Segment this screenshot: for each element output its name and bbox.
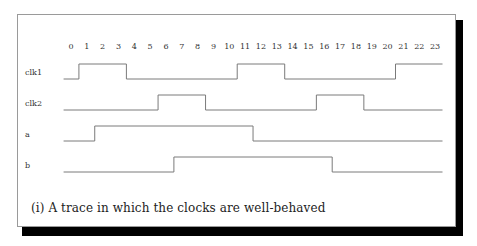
- signal-label-b: b: [25, 161, 30, 170]
- tick-label: 1: [84, 42, 89, 51]
- signal-trace-clk1: [64, 64, 443, 79]
- signal-traces: clk1clk2ab: [25, 64, 443, 172]
- tick-label: 3: [116, 42, 121, 51]
- tick-label: 0: [68, 42, 73, 51]
- tick-label: 19: [367, 42, 377, 51]
- signal-label-a: a: [25, 130, 30, 139]
- tick-label: 5: [148, 42, 153, 51]
- tick-label: 11: [240, 42, 250, 51]
- tick-label: 18: [351, 42, 361, 51]
- tick-label: 14: [288, 42, 298, 51]
- signal-trace-b: [64, 157, 443, 172]
- tick-label: 8: [195, 42, 200, 51]
- figure-caption: (i) A trace in which the clocks are well…: [31, 201, 325, 215]
- tick-label: 15: [303, 42, 313, 51]
- signal-label-clk2: clk2: [25, 99, 42, 108]
- tick-label: 12: [256, 42, 266, 51]
- signal-trace-a: [64, 126, 443, 141]
- tick-label: 16: [319, 42, 329, 51]
- tick-label: 17: [335, 42, 345, 51]
- tick-label: 23: [430, 42, 440, 51]
- time-axis-ticks: 01234567891011121314151617181920212223: [68, 42, 440, 51]
- tick-label: 10: [224, 42, 234, 51]
- signal-trace-clk2: [64, 95, 443, 110]
- tick-label: 22: [414, 42, 424, 51]
- tick-label: 7: [179, 42, 184, 51]
- tick-label: 13: [272, 42, 282, 51]
- tick-label: 20: [383, 42, 393, 51]
- tick-label: 4: [132, 42, 137, 51]
- tick-label: 6: [163, 42, 168, 51]
- tick-label: 21: [398, 42, 408, 51]
- tick-label: 9: [211, 42, 216, 51]
- tick-label: 2: [100, 42, 105, 51]
- signal-label-clk1: clk1: [25, 68, 42, 77]
